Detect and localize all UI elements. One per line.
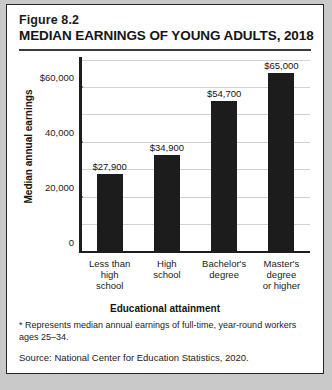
bar-value-label: $34,900 <box>150 142 184 153</box>
figure-header: Figure 8.2 MEDIAN EARNINGS OF YOUNG ADUL… <box>7 5 323 44</box>
bar-value-label: $27,900 <box>92 161 126 172</box>
x-axis-title: Educational attainment <box>7 303 323 314</box>
x-axis-category-label: Highschool <box>138 258 195 280</box>
x-axis-line <box>79 251 310 253</box>
y-axis-tick-label: 20,000 <box>45 181 74 192</box>
plot-area: $27,900$34,900$54,700$65,000 020,00040,0… <box>79 61 310 253</box>
figure-source: Source: National Center for Education St… <box>19 352 311 364</box>
y-axis-tick-label: 40,000 <box>45 126 74 137</box>
bar <box>97 174 123 251</box>
figure-footnote: * Represents median annual earnings of f… <box>19 319 311 343</box>
y-axis-tick-label: $60,000 <box>40 71 74 82</box>
y-axis-title: Median annual earnings <box>23 76 34 216</box>
x-axis-category-label: Bachelor'sdegree <box>196 258 253 280</box>
figure-footer: * Represents median annual earnings of f… <box>19 319 311 364</box>
figure-number: Figure 8.2 <box>19 13 311 27</box>
bar-group: $65,000 <box>253 57 310 252</box>
bar-group: $54,700 <box>196 57 253 252</box>
figure-title: MEDIAN EARNINGS OF YOUNG ADULTS, 2018 <box>19 28 311 44</box>
bar-group: $34,900 <box>138 57 195 252</box>
bar-group: $27,900 <box>81 57 138 252</box>
x-axis-category-label: Less thanhighschool <box>81 258 138 291</box>
bar-value-label: $54,700 <box>207 88 241 99</box>
bar <box>154 155 180 251</box>
y-axis-line <box>79 57 82 253</box>
figure-card: Figure 8.2 MEDIAN EARNINGS OF YOUNG ADUL… <box>6 4 324 374</box>
title-divider <box>19 49 311 51</box>
bar-series: $27,900$34,900$54,700$65,000 <box>81 57 310 252</box>
bar <box>268 73 294 251</box>
y-axis-tick-label: 0 <box>69 236 74 247</box>
bar-value-label: $65,000 <box>264 60 298 71</box>
x-axis-category-labels: Less thanhighschoolHighschoolBachelor'sd… <box>81 258 310 302</box>
bar <box>211 101 237 251</box>
x-axis-category-label: Master'sdegreeor higher <box>253 258 310 291</box>
bar-chart: Median annual earnings $27,900$34,900$54… <box>7 55 323 307</box>
